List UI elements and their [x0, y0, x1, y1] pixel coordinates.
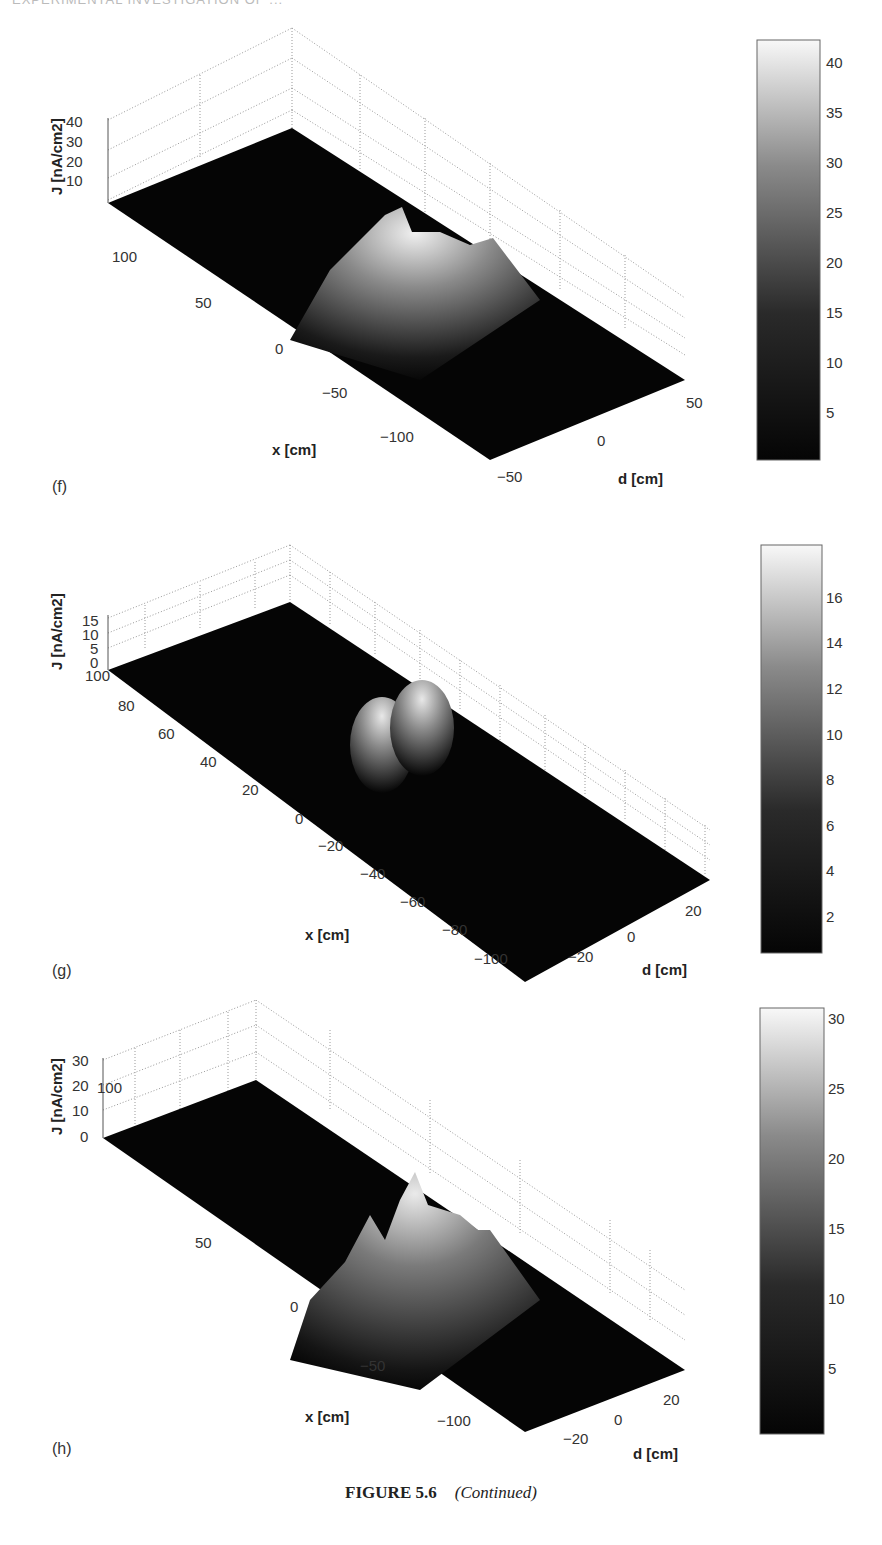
svg-text:0: 0 — [597, 432, 605, 449]
svg-text:15: 15 — [828, 1220, 845, 1237]
svg-text:20: 20 — [66, 153, 83, 170]
svg-text:4: 4 — [826, 862, 834, 879]
x-axis-label: x [cm] — [305, 926, 349, 943]
z-axis-ticks: 30 20 10 0 — [72, 1052, 89, 1145]
svg-text:25: 25 — [826, 204, 843, 221]
panel-g: 15 10 5 0 J [nA/cm2] 100 80 60 40 20 0 −… — [0, 530, 882, 1000]
svg-text:−50: −50 — [497, 468, 522, 485]
caption-label: FIGURE 5.6 — [345, 1483, 437, 1502]
surface-floor — [108, 602, 710, 982]
colorbar-ticks: 30 25 20 15 10 5 — [828, 1010, 845, 1377]
svg-text:80: 80 — [118, 697, 135, 714]
svg-text:25: 25 — [828, 1080, 845, 1097]
svg-text:20: 20 — [663, 1391, 680, 1408]
svg-text:20: 20 — [685, 902, 702, 919]
panel-h: 30 20 10 0 J [nA/cm2] 100 50 0 −50 −100 … — [0, 1000, 882, 1470]
svg-text:8: 8 — [826, 771, 834, 788]
svg-text:30: 30 — [828, 1010, 845, 1027]
figure-caption: FIGURE 5.6(Continued) — [0, 1483, 882, 1503]
surface-plot-f: 40 30 20 10 J [nA/cm2] 100 50 0 −50 −100… — [0, 0, 882, 500]
panel-label-g: (g) — [52, 962, 72, 980]
svg-text:16: 16 — [826, 589, 843, 606]
svg-text:0: 0 — [275, 340, 283, 357]
svg-text:12: 12 — [826, 680, 843, 697]
svg-text:100: 100 — [85, 667, 110, 684]
svg-text:−60: −60 — [400, 893, 425, 910]
d-axis-label: d [cm] — [642, 961, 687, 978]
svg-text:2: 2 — [826, 908, 834, 925]
caption-note: (Continued) — [455, 1483, 537, 1502]
svg-text:20: 20 — [828, 1150, 845, 1167]
svg-text:−100: −100 — [474, 950, 508, 967]
colorbar-ticks: 40 35 30 25 20 15 10 5 — [826, 54, 843, 421]
panel-label-f: (f) — [52, 478, 67, 496]
svg-text:−100: −100 — [380, 428, 414, 445]
d-axis-label: d [cm] — [633, 1445, 678, 1462]
surface-plot-h: 30 20 10 0 J [nA/cm2] 100 50 0 −50 −100 … — [0, 1000, 882, 1470]
svg-text:−50: −50 — [360, 1357, 385, 1374]
svg-text:15: 15 — [826, 304, 843, 321]
svg-text:10: 10 — [828, 1290, 845, 1307]
svg-text:10: 10 — [826, 726, 843, 743]
svg-text:0: 0 — [80, 1128, 88, 1145]
svg-text:−20: −20 — [563, 1430, 588, 1447]
svg-text:20: 20 — [826, 254, 843, 271]
svg-text:−20: −20 — [318, 837, 343, 854]
svg-text:100: 100 — [97, 1079, 122, 1096]
svg-text:0: 0 — [627, 928, 635, 945]
svg-text:50: 50 — [195, 1234, 212, 1251]
svg-text:0: 0 — [295, 810, 303, 827]
svg-text:40: 40 — [66, 113, 83, 130]
z-axis-label: J [nA/cm2] — [48, 118, 65, 195]
svg-text:100: 100 — [112, 248, 137, 265]
z-axis-ticks: 40 30 20 10 — [66, 113, 83, 189]
colorbar — [757, 40, 820, 460]
surface-peak-2 — [390, 680, 454, 776]
svg-text:0: 0 — [614, 1411, 622, 1428]
d-axis-label: d [cm] — [618, 470, 663, 487]
colorbar-ticks: 16 14 12 10 8 6 4 2 — [826, 589, 843, 925]
colorbar — [761, 545, 822, 953]
svg-text:50: 50 — [195, 294, 212, 311]
surface-plot-g: 15 10 5 0 J [nA/cm2] 100 80 60 40 20 0 −… — [0, 530, 882, 1000]
svg-text:10: 10 — [72, 1102, 89, 1119]
svg-text:5: 5 — [826, 404, 834, 421]
x-axis-label: x [cm] — [305, 1408, 349, 1425]
svg-text:−50: −50 — [322, 384, 347, 401]
svg-text:5: 5 — [828, 1360, 836, 1377]
z-axis-ticks: 15 10 5 0 — [82, 612, 99, 671]
svg-text:20: 20 — [72, 1077, 89, 1094]
svg-text:6: 6 — [826, 817, 834, 834]
svg-text:35: 35 — [826, 104, 843, 121]
svg-text:20: 20 — [242, 781, 259, 798]
svg-text:30: 30 — [72, 1052, 89, 1069]
svg-text:40: 40 — [826, 54, 843, 71]
z-axis-label: J [nA/cm2] — [48, 1058, 65, 1135]
svg-text:40: 40 — [200, 753, 217, 770]
x-axis-label: x [cm] — [272, 441, 316, 458]
svg-text:−80: −80 — [442, 921, 467, 938]
svg-text:60: 60 — [158, 725, 175, 742]
svg-text:14: 14 — [826, 634, 843, 651]
svg-text:−40: −40 — [360, 865, 385, 882]
svg-text:10: 10 — [66, 172, 83, 189]
svg-text:50: 50 — [686, 394, 703, 411]
svg-text:−100: −100 — [437, 1412, 471, 1429]
z-axis-label: J [nA/cm2] — [48, 593, 65, 670]
svg-text:0: 0 — [290, 1298, 298, 1315]
svg-text:10: 10 — [826, 354, 843, 371]
svg-text:−20: −20 — [568, 948, 593, 965]
colorbar — [760, 1008, 824, 1434]
panel-f: 40 30 20 10 J [nA/cm2] 100 50 0 −50 −100… — [0, 0, 882, 500]
svg-text:30: 30 — [66, 133, 83, 150]
panel-label-h: (h) — [52, 1440, 72, 1458]
svg-text:30: 30 — [826, 154, 843, 171]
